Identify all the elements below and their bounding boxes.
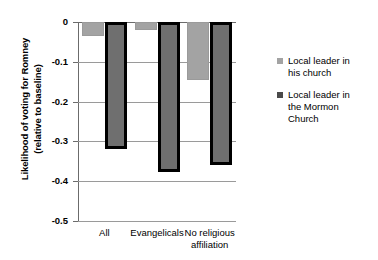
plot-area: [78, 22, 236, 221]
xtick-line1: All: [99, 227, 110, 238]
y-axis-tick-label: -0.5: [22, 215, 68, 226]
legend-swatch-light-icon: [277, 58, 283, 64]
y-axis-tick: [73, 62, 78, 63]
y-axis-tick-label: -0.2: [22, 96, 68, 107]
legend-swatch-dark-icon: [277, 92, 283, 98]
legend-label-light-line2: his church: [288, 67, 331, 78]
legend-item-light[interactable]: Local leader in his church: [277, 55, 378, 79]
legend-label-dark-line3: Church: [288, 113, 319, 124]
bar-evangelicals-series2[interactable]: [158, 22, 180, 172]
legend-label-dark-line1: Local leader in: [288, 89, 350, 100]
bar-all-series2[interactable]: [105, 22, 127, 149]
gridline: [78, 221, 236, 222]
y-axis-tick: [73, 181, 78, 182]
bar-evangelicals-series1[interactable]: [135, 22, 157, 30]
legend-item-dark[interactable]: Local leader in the Mormon Church: [277, 89, 378, 125]
x-axis-tick-label-no-religious-affiliation: No religiousaffiliation: [176, 227, 243, 251]
bar-no-religious-affiliation-series1[interactable]: [187, 22, 209, 80]
chart-legend: Local leader in his church Local leader …: [277, 55, 378, 135]
y-axis-tick: [73, 102, 78, 103]
y-axis-tick: [73, 22, 78, 23]
y-axis-tick: [73, 141, 78, 142]
y-axis-tick-label: 0: [22, 16, 68, 27]
xtick-line2: affiliation: [191, 239, 228, 250]
legend-label-dark: Local leader in the Mormon Church: [288, 89, 350, 125]
bar-all-series1[interactable]: [82, 22, 104, 36]
bar-no-religious-affiliation-series2[interactable]: [210, 22, 232, 165]
y-axis-tick-label: -0.4: [22, 175, 68, 186]
legend-label-dark-line2: the Mormon: [288, 101, 339, 112]
xtick-line1: No religious: [185, 227, 235, 238]
y-axis-tick: [73, 221, 78, 222]
gridline: [78, 181, 236, 182]
legend-label-light: Local leader in his church: [288, 55, 350, 79]
y-axis-tick-label: -0.1: [22, 56, 68, 67]
legend-label-light-line1: Local leader in: [288, 55, 350, 66]
bar-chart-figure: Likelihood of voting for Romney (relativ…: [0, 0, 378, 260]
y-axis-tick-label: -0.3: [22, 135, 68, 146]
